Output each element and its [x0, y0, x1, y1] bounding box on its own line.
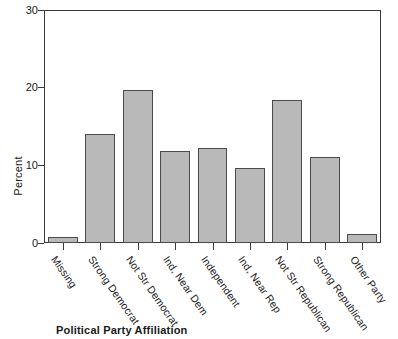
x-tick-label: Missing [49, 254, 79, 290]
x-tick-label: Other Party [348, 254, 388, 305]
bar-chart: Percent 30 20 10 0 MissingStrong Democra… [0, 0, 398, 339]
x-axis-title: Political Party Affiliation [56, 324, 188, 336]
x-tick-label: Independent [198, 254, 241, 309]
x-axis-tick-labels: MissingStrong DemocratNot Str DemocratIn… [0, 0, 398, 339]
